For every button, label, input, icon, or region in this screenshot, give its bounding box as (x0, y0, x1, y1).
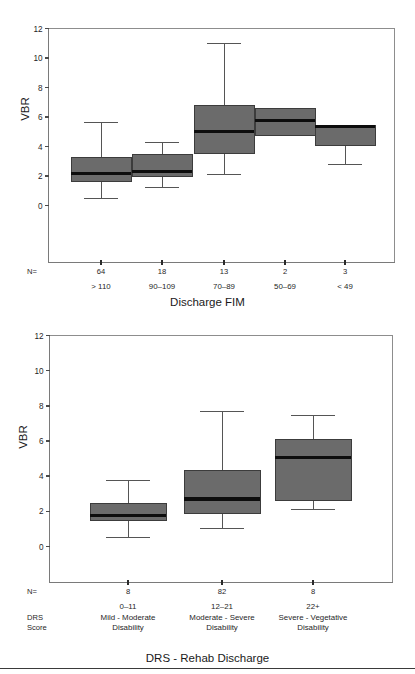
box-iqr (194, 105, 254, 153)
y-tick-label: 10 (33, 54, 43, 63)
n-value-label: 18 (158, 267, 166, 276)
n-prefix-label: N= (27, 587, 37, 596)
category-label: 70–89 (213, 282, 236, 291)
n-value-label: 8 (126, 587, 130, 596)
box-iqr (71, 158, 131, 182)
boxplot-box (255, 108, 315, 135)
category-desc-line2: Disability (112, 623, 144, 632)
category-desc-line1: Moderate - Severe (189, 613, 255, 622)
category-range-label: 22+ (306, 602, 320, 611)
y-tick-label: 12 (34, 332, 44, 341)
category-desc-line2: Disability (297, 623, 329, 632)
box-iqr (275, 439, 351, 501)
y-tick-label: 6 (39, 437, 44, 446)
category-range-label: 0–11 (120, 602, 137, 611)
boxplot-box (194, 44, 254, 175)
drs-score-prefix-line2: Score (27, 623, 47, 632)
y-tick-label: 6 (38, 113, 43, 122)
category-label: < 49 (337, 282, 353, 291)
chart-panel-discharge-fim: 024681012N=64181323> 11090–10970–8950–69… (0, 0, 415, 318)
category-range-label: 12–21 (211, 602, 233, 611)
box-iqr (90, 503, 166, 520)
y-tick-label: 0 (39, 543, 44, 552)
box-iqr (184, 471, 260, 513)
category-label: 50–69 (274, 282, 297, 291)
y-tick-label: 12 (33, 25, 43, 34)
boxplot-box (132, 142, 192, 187)
boxplot-box (315, 125, 375, 165)
n-value-label: 2 (283, 267, 287, 276)
discharge-fim-plot: 024681012N=64181323> 11090–10970–8950–69… (0, 0, 415, 318)
category-label: > 110 (91, 282, 111, 291)
boxplot-box (90, 481, 166, 538)
y-tick-label: 0 (38, 202, 43, 211)
category-desc-line2: Disability (206, 623, 238, 632)
n-value-label: 13 (220, 267, 228, 276)
n-value-label: 64 (97, 267, 105, 276)
n-value-label: 3 (343, 267, 347, 276)
boxplot-box (184, 411, 260, 528)
boxplot-box (71, 123, 131, 198)
category-desc-line1: Mild - Moderate (101, 613, 156, 622)
n-prefix-label: N= (27, 267, 37, 276)
y-tick-label: 8 (39, 402, 44, 411)
y-tick-label: 4 (38, 143, 43, 152)
chart-panel-drs-rehab-discharge: 024681012N=8828DRSScore0–11Mild - Modera… (0, 318, 415, 674)
boxplot-figure: 024681012N=64181323> 11090–10970–8950–69… (0, 0, 415, 674)
category-desc-line1: Severe - Vegetative (279, 613, 348, 622)
category-label: 90–109 (149, 282, 176, 291)
footer-rule (0, 668, 415, 669)
y-tick-label: 2 (39, 507, 44, 516)
n-value-label: 8 (311, 587, 315, 596)
drs-score-prefix-line1: DRS (27, 613, 43, 622)
n-value-label: 82 (218, 587, 226, 596)
y-tick-label: 2 (38, 172, 43, 181)
box-iqr (315, 125, 375, 146)
y-tick-label: 4 (39, 472, 44, 481)
y-tick-label: 8 (38, 84, 43, 93)
y-tick-label: 10 (34, 367, 44, 376)
boxplot-box (275, 416, 351, 510)
drs-rehab-discharge-plot: 024681012N=8828DRSScore0–11Mild - Modera… (0, 318, 415, 674)
